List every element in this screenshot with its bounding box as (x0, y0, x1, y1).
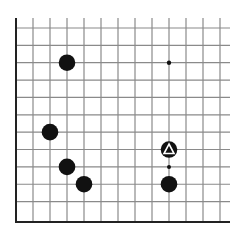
stone-icon (59, 159, 76, 176)
black-stone (76, 176, 93, 193)
black-stone-triangle-marked (161, 141, 178, 158)
black-stone (42, 124, 59, 141)
stone-icon (59, 54, 76, 71)
hoshi-point-icon (167, 61, 171, 65)
stone-icon (161, 176, 178, 193)
stone-icon (76, 176, 93, 193)
black-stone (59, 159, 76, 176)
go-board-diagram (0, 0, 247, 232)
stone-icon (42, 124, 59, 141)
black-stone (59, 54, 76, 71)
black-stone (161, 176, 178, 193)
board-edges (15, 18, 230, 222)
stones-layer (42, 54, 178, 192)
dot-marker-icon (167, 165, 171, 169)
board-grid (16, 18, 230, 222)
